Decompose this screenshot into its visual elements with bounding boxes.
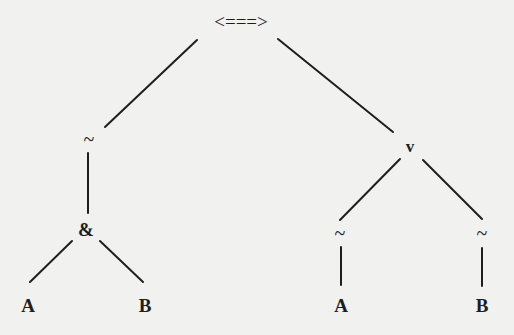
edge-or-to-not-a xyxy=(340,159,400,220)
edge-root-to-or xyxy=(278,39,393,132)
edge-root-to-not-left xyxy=(105,40,197,127)
node-leaf-a-right: A xyxy=(334,295,348,316)
node-conjunction: & xyxy=(78,219,94,240)
node-leaf-b-left: B xyxy=(139,295,152,316)
node-leaf-a-left: A xyxy=(21,295,35,316)
edge-and-to-a xyxy=(30,241,72,282)
edge-or-to-not-b xyxy=(423,160,482,219)
edge-and-to-b xyxy=(100,241,143,282)
node-negation-left: ~ xyxy=(84,128,95,150)
tree-edges xyxy=(30,39,482,286)
node-negation-b: ~ xyxy=(477,222,488,244)
node-disjunction: v xyxy=(406,137,415,156)
node-biconditional: <===> xyxy=(214,11,268,32)
parse-tree-diagram: <===> ~ v & A B ~ ~ A B xyxy=(0,0,514,335)
tree-nodes: <===> ~ v & A B ~ ~ A B xyxy=(21,11,489,316)
node-negation-a: ~ xyxy=(335,222,346,244)
node-leaf-b-right: B xyxy=(476,295,489,316)
